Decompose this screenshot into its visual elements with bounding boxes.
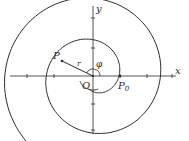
y-axis-label: y: [95, 3, 102, 14]
point-p0-label: P0: [117, 80, 130, 93]
origin-marker: [92, 75, 94, 77]
axes: [10, 6, 176, 134]
angle-label: φ: [96, 59, 103, 69]
radius-label: r: [77, 59, 82, 68]
point-p0-marker: [119, 75, 122, 78]
x-axis-label: x: [175, 65, 181, 76]
point-p-label: P: [52, 50, 60, 61]
point-p-marker: [61, 60, 64, 63]
origin-label: O: [82, 80, 90, 91]
polar-spiral-diagram: y x O P r φ P0: [0, 0, 189, 141]
